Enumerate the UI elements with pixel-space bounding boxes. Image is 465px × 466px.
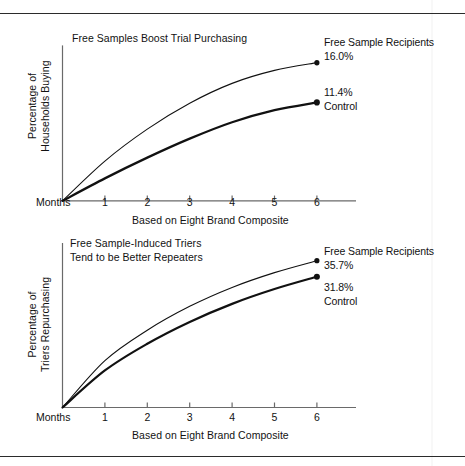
x-axis-tick-label: 4 — [219, 196, 245, 208]
series-label-free-sample-recipients-bottom: Free Sample Recipients 35.7% — [324, 245, 434, 272]
y-axis-label-top: Percentage of Households Buying — [26, 48, 52, 164]
x-axis-origin-label-top: Months — [36, 196, 70, 208]
x-axis-tick-label: 5 — [262, 196, 288, 208]
series-line-control-top — [63, 102, 317, 200]
series-line-free-sample-recipients-bottom — [63, 261, 317, 408]
series-line-control-bottom — [63, 277, 317, 408]
x-axis-tick-label: 4 — [219, 411, 245, 423]
endpoint-marker-control-bottom — [314, 274, 320, 280]
x-axis-tick-label: 2 — [134, 411, 160, 423]
x-axis-caption-top: Based on Eight Brand Composite — [132, 214, 289, 226]
series-label-free-sample-recipients-top: Free Sample Recipients 16.0% — [324, 36, 434, 63]
chart-panel-bottom: Free Sample-Induced Triers Tend to be Be… — [0, 229, 465, 454]
series-label-control-bottom: 31.8% Control — [324, 281, 357, 308]
endpoint-marker-free-sample-recipients-top — [314, 60, 319, 65]
x-axis-tick-label: 2 — [134, 196, 160, 208]
x-axis-tick-label: 1 — [92, 411, 118, 423]
chart-title-top: Free Samples Boost Trial Purchasing — [72, 32, 247, 46]
x-axis-tick-label: 3 — [177, 196, 203, 208]
x-axis-tick-label: 3 — [177, 411, 203, 423]
x-axis-tick-label: 5 — [262, 411, 288, 423]
x-axis-ticks-bottom — [105, 403, 317, 408]
bottom-divider-rule — [0, 456, 465, 457]
chart-panel-top: Free Samples Boost Trial Purchasing Perc… — [0, 14, 465, 229]
endpoint-marker-control-top — [314, 99, 320, 105]
series-label-control-top: 11.4% Control — [324, 86, 357, 113]
x-axis-tick-label: 1 — [92, 196, 118, 208]
endpoint-marker-free-sample-recipients-bottom — [314, 258, 319, 263]
chart-title-bottom: Free Sample-Induced Triers Tend to be Be… — [70, 237, 203, 264]
x-axis-origin-label-bottom: Months — [36, 411, 70, 423]
x-axis-tick-label: 6 — [304, 411, 330, 423]
x-axis-caption-bottom: Based on Eight Brand Composite — [132, 429, 289, 441]
figure-page: Free Samples Boost Trial Purchasing Perc… — [0, 0, 465, 466]
x-axis-tick-label: 6 — [304, 196, 330, 208]
y-axis-label-bottom: Percentage of Triers Repurchasing — [26, 262, 52, 387]
